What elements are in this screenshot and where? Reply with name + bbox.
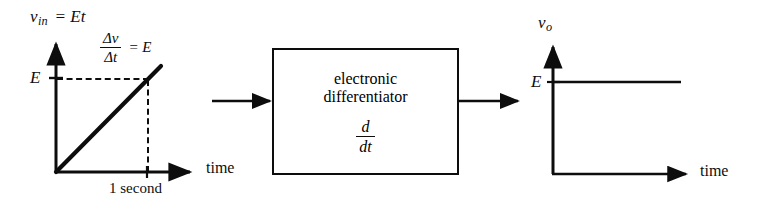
figure-canvas: vin= Et Δv Δt = E E 1 second time electr… (0, 0, 764, 204)
line-art-overlay (0, 0, 764, 204)
input-ramp-waveform (56, 66, 161, 172)
